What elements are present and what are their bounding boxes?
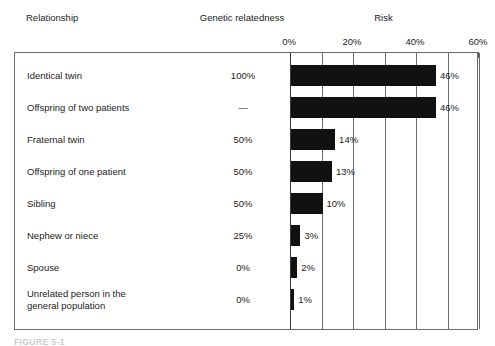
figure-container: Relationship Genetic relatedness Risk 0%… [0, 0, 495, 346]
figure-caption: FIGURE 5-1 [14, 337, 65, 346]
row-label-relationship: Nephew or niece [27, 230, 98, 242]
row-label-relationship: Sibling [27, 198, 56, 210]
risk-bar [291, 161, 332, 182]
risk-bar-value-label: 3% [304, 225, 318, 246]
chart-row: Sibling50%10% [15, 191, 479, 223]
gridline [479, 53, 480, 329]
risk-bar [291, 97, 436, 118]
column-header-risk: Risk [289, 12, 478, 24]
risk-bar-value-label: 1% [298, 289, 312, 310]
row-genetic-relatedness: 50% [197, 198, 289, 209]
risk-bar [291, 289, 294, 310]
row-label-relationship: Offspring of one patient [27, 166, 126, 178]
risk-bar-value-label: 10% [327, 193, 346, 214]
chart-row: Fraternal twin50%14% [15, 127, 479, 159]
row-label-line: Unrelated person in the [27, 288, 126, 300]
row-genetic-relatedness: 50% [197, 166, 289, 177]
chart-frame: Identical twin100%46%Offspring of two pa… [14, 52, 478, 330]
row-genetic-relatedness: 100% [197, 70, 289, 81]
risk-bar [291, 225, 300, 246]
chart-row: Identical twin100%46% [15, 63, 479, 95]
chart-row: Nephew or niece25%3% [15, 223, 479, 255]
chart-row: Offspring of two patients—46% [15, 95, 479, 127]
row-genetic-relatedness: 25% [197, 230, 289, 241]
row-label-relationship: Spouse [27, 262, 59, 274]
chart-row: Spouse0%2% [15, 255, 479, 287]
row-label-line: general population [27, 300, 126, 312]
chart-row: Offspring of one patient50%13% [15, 159, 479, 191]
row-genetic-relatedness: 0% [197, 262, 289, 273]
row-label-relationship: Fraternal twin [27, 134, 85, 146]
row-genetic-relatedness: — [197, 102, 289, 113]
risk-bar-value-label: 13% [336, 161, 355, 182]
risk-bar [291, 65, 436, 86]
x-axis-label: 20% [342, 36, 361, 47]
risk-bar-value-label: 2% [301, 257, 315, 278]
risk-bar-value-label: 14% [339, 129, 358, 150]
row-genetic-relatedness: 0% [197, 294, 289, 305]
risk-bar [291, 257, 297, 278]
row-label-relationship: Identical twin [27, 70, 82, 82]
risk-bar [291, 193, 323, 214]
row-label-relationship: Offspring of two patients [27, 102, 129, 114]
x-axis-labels: 0%20%40%60% [289, 36, 478, 48]
row-genetic-relatedness: 50% [197, 134, 289, 145]
x-axis-label: 40% [405, 36, 424, 47]
chart-row: Unrelated person in thegeneral populatio… [15, 287, 479, 319]
column-header-genetic-relatedness: Genetic relatedness [196, 12, 288, 24]
column-header-relationship: Relationship [26, 12, 78, 24]
row-label-relationship: Unrelated person in thegeneral populatio… [27, 288, 126, 311]
risk-bar [291, 129, 335, 150]
x-axis-label: 60% [468, 36, 487, 47]
risk-bar-value-label: 46% [440, 65, 459, 86]
risk-bar-value-label: 46% [440, 97, 459, 118]
x-axis-label: 0% [282, 36, 296, 47]
